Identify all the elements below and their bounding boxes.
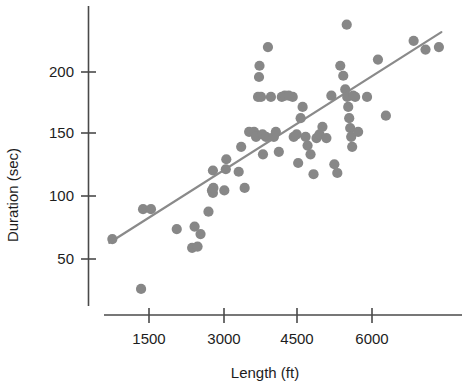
- scatter-point: [350, 92, 360, 102]
- scatter-point: [326, 91, 336, 101]
- scatter-point: [208, 183, 218, 193]
- scatter-point: [353, 127, 363, 137]
- scatter-point: [136, 284, 146, 294]
- scatter-point: [234, 167, 244, 177]
- scatter-point: [254, 61, 264, 71]
- scatter-point: [342, 20, 352, 30]
- scatter-point: [221, 154, 231, 164]
- scatter-point: [338, 71, 348, 81]
- scatter-point: [208, 165, 218, 175]
- scatter-points-group: [107, 20, 444, 294]
- scatter-point: [381, 111, 391, 121]
- scatter-point: [317, 122, 327, 132]
- scatter-point: [172, 224, 182, 234]
- scatter-point: [321, 133, 331, 143]
- x-axis-title: Length (ft): [231, 364, 299, 381]
- scatter-point: [221, 164, 231, 174]
- scatter-point: [240, 183, 250, 193]
- scatter-point: [258, 149, 268, 159]
- x-tick-label: 4500: [280, 330, 313, 347]
- x-tick-label: 1500: [132, 330, 165, 347]
- scatter-point: [409, 36, 419, 46]
- scatter-point: [300, 132, 310, 142]
- scatter-point: [219, 185, 229, 195]
- y-tick-label: 150: [49, 124, 74, 141]
- scatter-point: [347, 142, 357, 152]
- scatter-point: [256, 92, 266, 102]
- scatter-point: [332, 168, 342, 178]
- scatter-point: [292, 129, 302, 139]
- scatter-point: [192, 241, 202, 251]
- scatter-point: [420, 44, 430, 54]
- scatter-point: [434, 42, 444, 52]
- scatter-point: [373, 54, 383, 64]
- scatter-point: [254, 72, 264, 82]
- scatter-point: [305, 149, 315, 159]
- y-tick-label: 100: [49, 187, 74, 204]
- x-tick-label: 6000: [355, 330, 388, 347]
- plot-svg: Duration (sec) Length (ft) 200 150 100 5…: [0, 0, 470, 384]
- scatter-point: [343, 102, 353, 112]
- scatter-point: [203, 207, 213, 217]
- x-tick-label: 3000: [207, 330, 240, 347]
- scatter-point: [362, 92, 372, 102]
- scatter-point: [335, 61, 345, 71]
- y-tick-label: 200: [49, 63, 74, 80]
- scatter-point: [344, 113, 354, 123]
- scatter-point: [195, 229, 205, 239]
- scatter-point: [302, 140, 312, 150]
- x-axis-tick-labels: 1500 3000 4500 6000: [132, 330, 388, 347]
- scatter-point: [271, 127, 281, 137]
- scatter-point: [298, 102, 308, 112]
- scatter-point: [236, 142, 246, 152]
- scatter-point: [288, 92, 298, 102]
- scatter-point: [329, 159, 339, 169]
- scatter-point: [107, 234, 117, 244]
- scatter-point: [274, 147, 284, 157]
- scatter-point: [293, 158, 303, 168]
- scatter-point: [146, 204, 156, 214]
- scatter-point: [263, 42, 273, 52]
- scatter-plot-figure: Duration (sec) Length (ft) 200 150 100 5…: [0, 0, 470, 384]
- scatter-point: [266, 92, 276, 102]
- scatter-point: [308, 169, 318, 179]
- y-tick-label: 50: [57, 250, 74, 267]
- y-axis-title: Duration (sec): [4, 148, 21, 242]
- y-axis-tick-labels: 200 150 100 50: [49, 63, 74, 267]
- scatter-point: [296, 113, 306, 123]
